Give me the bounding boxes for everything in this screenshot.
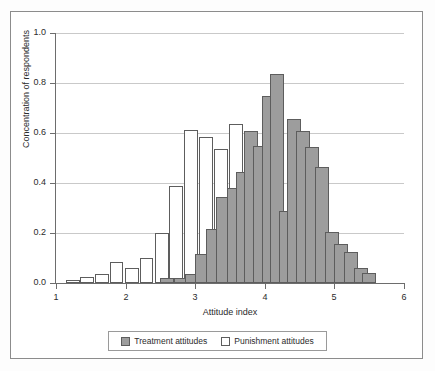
histogram-bar <box>125 268 139 284</box>
x-tick-mark <box>265 284 266 289</box>
x-axis-label: Attitude index <box>56 307 404 317</box>
x-tick-label: 4 <box>255 292 275 302</box>
chart-legend: Treatment attitudesPunishment attitudes <box>108 331 327 351</box>
histogram-bar <box>362 273 376 283</box>
histogram-bar <box>95 274 109 283</box>
x-tick-label: 6 <box>394 292 414 302</box>
histogram-bar <box>80 277 94 283</box>
x-tick-label: 1 <box>46 292 66 302</box>
x-tick-label: 3 <box>185 292 205 302</box>
histogram-bar <box>160 278 174 283</box>
plot-area <box>56 33 404 283</box>
y-tick-label: 0.4 <box>18 178 46 187</box>
x-tick-label: 2 <box>116 292 136 302</box>
x-tick-mark <box>334 284 335 289</box>
histogram-bar <box>110 262 124 283</box>
y-tick-label: 0.0 <box>18 278 46 287</box>
histogram-bar <box>66 280 80 283</box>
y-tick-mark <box>50 183 55 184</box>
x-tick-mark <box>404 284 405 289</box>
y-axis-label: Concentration of respondents <box>21 0 31 179</box>
y-tick-mark <box>50 233 55 234</box>
histogram-bar <box>140 258 154 283</box>
legend-entry: Treatment attitudes <box>121 337 207 346</box>
y-tick-label: 0.2 <box>18 228 46 237</box>
y-tick-mark <box>50 133 55 134</box>
y-tick-mark <box>50 283 55 284</box>
x-tick-mark <box>195 284 196 289</box>
histogram-bar <box>169 186 183 284</box>
legend-swatch-punishment <box>221 337 230 346</box>
x-tick-mark <box>56 284 57 289</box>
legend-entry: Punishment attitudes <box>221 337 313 346</box>
legend-label: Punishment attitudes <box>234 337 313 346</box>
legend-swatch-treatment <box>121 337 130 346</box>
y-tick-mark <box>50 83 55 84</box>
y-tick-mark <box>50 33 55 34</box>
histogram-bar <box>155 233 169 283</box>
legend-label: Treatment attitudes <box>134 337 207 346</box>
x-tick-label: 5 <box>324 292 344 302</box>
chart-figure: 0.00.20.40.60.81.0 123456 Concentration … <box>0 0 435 371</box>
x-axis-line <box>55 283 405 284</box>
x-tick-mark <box>126 284 127 289</box>
